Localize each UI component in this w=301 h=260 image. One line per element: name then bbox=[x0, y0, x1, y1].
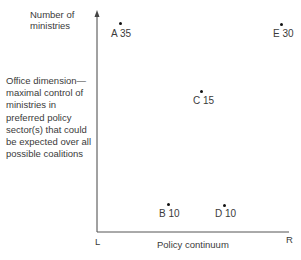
y-axis-title-line-1: Number of bbox=[30, 9, 74, 20]
x-axis-left-end: L bbox=[95, 236, 100, 247]
point-e-label: E 30 bbox=[273, 28, 294, 39]
y-axis-title: Number of ministries bbox=[30, 9, 74, 31]
y-axis-arrow-icon bbox=[95, 10, 100, 17]
point-d-marker bbox=[223, 204, 226, 207]
point-c-label: C 15 bbox=[193, 95, 214, 106]
x-axis-title: Policy continuum bbox=[157, 239, 229, 250]
desc-line: Office dimension— bbox=[6, 75, 91, 87]
desc-line: possible coalitions bbox=[6, 148, 91, 160]
point-a-marker bbox=[119, 22, 122, 25]
point-e-marker bbox=[280, 23, 283, 26]
desc-line: ministries in bbox=[6, 99, 91, 111]
y-axis-title-line-2: ministries bbox=[30, 20, 74, 31]
desc-line: sector(s) that could bbox=[6, 124, 91, 136]
point-c-marker bbox=[200, 90, 203, 93]
desc-line: be expected over all bbox=[6, 136, 91, 148]
x-axis-right-end: R bbox=[286, 234, 293, 245]
y-axis-description: Office dimension— maximal control of min… bbox=[6, 75, 91, 160]
point-d-label: D 10 bbox=[215, 208, 236, 219]
desc-line: maximal control of bbox=[6, 87, 91, 99]
point-b-marker bbox=[167, 203, 170, 206]
desc-line: preferred policy bbox=[6, 112, 91, 124]
point-a-label: A 35 bbox=[111, 28, 131, 39]
point-b-label: B 10 bbox=[159, 208, 180, 219]
